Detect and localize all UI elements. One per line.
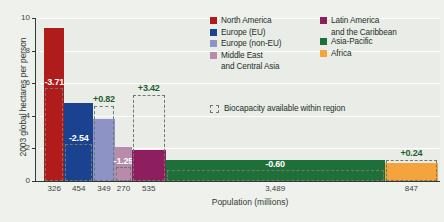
deficit-label: +0.82 xyxy=(93,94,115,104)
legend-item-label: Latin America xyxy=(331,16,379,26)
y-axis-tick-label: 4 xyxy=(4,111,30,120)
deficit-label: +0.24 xyxy=(400,148,422,158)
chart-root: 2003 global hectares per person 0246810 … xyxy=(0,0,444,222)
legend-item-sublabel: and Central Asia xyxy=(221,62,314,72)
legend-column-1: North AmericaEurope (EU)Europe (non-EU)M… xyxy=(210,16,314,72)
legend-swatch-icon xyxy=(210,40,217,47)
legend-item-label: Africa xyxy=(331,49,351,59)
x-axis-line xyxy=(35,181,440,182)
legend-biocapacity-label: Biocapacity available within region xyxy=(224,104,345,113)
x-axis-title-text: Population (millions) xyxy=(212,197,289,207)
deficit-label: -2.54 xyxy=(69,133,89,143)
legend-item-label: Middle East xyxy=(221,51,263,61)
gridline xyxy=(36,83,440,84)
legend-swatch-icon xyxy=(210,29,217,36)
biocapacity-swatch-icon xyxy=(210,105,219,113)
bar-africa xyxy=(385,163,438,181)
legend-item: Latin America xyxy=(320,16,438,26)
legend-swatch-icon xyxy=(320,38,327,45)
bar-latin-america-and-the-caribbean xyxy=(132,150,166,181)
bar-north-america xyxy=(44,28,64,181)
x-axis-tick-label: 535 xyxy=(129,184,169,193)
deficit-label: +3.42 xyxy=(138,83,160,93)
legend-column-2: Latin Americaand the CaribbeanAsia-Pacif… xyxy=(320,16,438,60)
legend-item: Africa xyxy=(320,49,438,59)
legend-swatch-icon xyxy=(320,50,327,57)
legend-swatch-icon xyxy=(320,17,327,24)
legend-item: Europe (EU) xyxy=(210,28,314,38)
legend-item-label: Europe (non-EU) xyxy=(221,39,281,49)
legend-item-label: North America xyxy=(221,16,272,26)
legend-item: Middle East xyxy=(210,51,314,61)
legend-item: North America xyxy=(210,16,314,26)
legend-item-label: Asia-Pacific xyxy=(331,37,373,47)
deficit-label: -3.71 xyxy=(44,77,64,87)
legend-item-sublabel: and the Caribbean xyxy=(331,28,438,38)
legend-item-label: Europe (EU) xyxy=(221,28,265,38)
x-axis-tick-label: 3,489 xyxy=(255,184,295,193)
x-axis-tick-label: 847 xyxy=(391,184,431,193)
legend-biocapacity: Biocapacity available within region xyxy=(210,104,345,113)
y-axis-tick-label: 0 xyxy=(4,176,30,185)
gridline xyxy=(36,116,440,117)
y-axis-tick-label: 8 xyxy=(4,46,30,55)
bar-europe-non-eu xyxy=(93,119,115,181)
y-axis-tick-label: 10 xyxy=(4,13,30,22)
legend-swatch-icon xyxy=(210,17,217,24)
deficit-label: -1.25 xyxy=(114,156,134,166)
deficit-label: -0.60 xyxy=(265,159,285,169)
y-axis-tick-label: 6 xyxy=(4,78,30,87)
x-axis-title: Population (millions) xyxy=(0,197,444,207)
y-axis-tick-label: 2 xyxy=(4,143,30,152)
legend-item: Asia-Pacific xyxy=(320,37,438,47)
legend-item: Europe (non-EU) xyxy=(210,39,314,49)
legend-swatch-icon xyxy=(210,52,217,59)
